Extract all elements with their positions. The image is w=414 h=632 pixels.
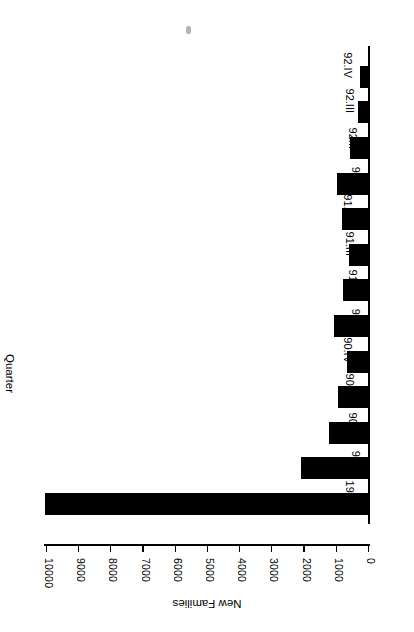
value-axis-title: New Families: [0, 598, 414, 610]
plot-area: [45, 55, 369, 515]
value-axis-tick-label: 10000: [43, 558, 55, 588]
scan-artifact-speck: [186, 26, 191, 34]
bar-chart-figure: New Families Quarter 0100020003000400050…: [0, 0, 414, 632]
category-axis-label: 90.I: [350, 451, 362, 469]
category-axis-label: 91.IV: [342, 195, 354, 221]
value-axis-tick: [271, 545, 272, 552]
value-axis-tick: [142, 545, 143, 552]
value-axis-tick-label: 5000: [204, 558, 216, 582]
value-axis-tick: [110, 545, 111, 552]
bar: [358, 101, 369, 123]
category-axis-title: Quarter: [4, 354, 16, 393]
category-axis-label: 91.I: [350, 309, 362, 327]
value-axis-tick: [46, 545, 47, 552]
value-axis-tick-label: 8000: [107, 558, 119, 582]
value-axis-tick: [207, 545, 208, 552]
category-axis-label: 1989: [344, 481, 356, 505]
category-axis-label: 92.I: [350, 166, 362, 184]
category-axis-label: 90.II: [347, 412, 359, 433]
category-axis-label: 90.III: [344, 374, 356, 398]
value-axis-tick: [303, 545, 304, 552]
category-axis-label: 90.IV: [342, 337, 354, 363]
bar: [45, 493, 369, 515]
category-axis-label: 92.II: [347, 128, 359, 149]
value-axis-tick: [336, 545, 337, 552]
value-axis-tick: [175, 545, 176, 552]
value-axis-tick-label: 4000: [236, 558, 248, 582]
value-axis-tick-label: 2000: [301, 558, 313, 582]
value-axis-tick-label: 6000: [172, 558, 184, 582]
category-axis-label: 91.II: [347, 270, 359, 291]
category-axis-label: 92.IV: [342, 52, 354, 78]
value-axis-tick: [78, 545, 79, 552]
value-axis-tick: [239, 545, 240, 552]
value-axis-tick-label: 9000: [75, 558, 87, 582]
value-axis-tick-label: 7000: [140, 558, 152, 582]
category-axis-label: 91.III: [344, 231, 356, 255]
value-axis-tick-label: 1000: [333, 558, 345, 582]
value-axis-tick-label: 3000: [268, 558, 280, 582]
bar: [360, 66, 369, 88]
category-axis-label: 92.III: [344, 89, 356, 113]
value-axis-tick-label: 0: [365, 558, 377, 564]
value-axis-tick: [368, 545, 369, 552]
